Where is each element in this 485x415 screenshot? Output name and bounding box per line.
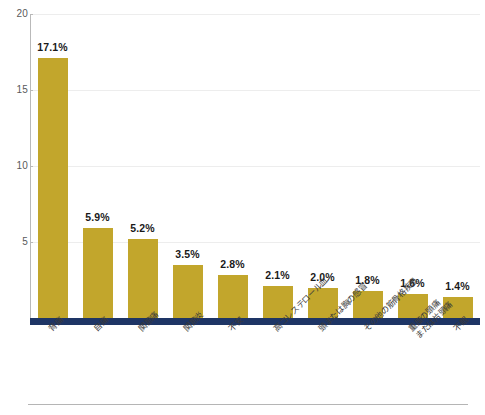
bar-group: 17.1% xyxy=(38,14,68,318)
y-tick-label-5: 5 xyxy=(4,236,28,247)
bar-group: 1.8% xyxy=(353,14,383,318)
bar-chart: 20 15 10 5 17.1%5.9%5.2%3.5%2.8%2.1%2.0%… xyxy=(0,0,485,415)
bar-value-label: 2.8% xyxy=(220,258,244,270)
bar-group: 2.0% xyxy=(308,14,338,318)
bars-layer: 17.1%5.9%5.2%3.5%2.8%2.1%2.0%1.8%1.6%1.4… xyxy=(30,14,480,318)
bar xyxy=(83,228,113,318)
bar-group: 3.5% xyxy=(173,14,203,318)
bar-group: 5.2% xyxy=(128,14,158,318)
bottom-divider xyxy=(28,404,468,405)
bar xyxy=(38,58,68,318)
x-axis-labels: 背痛自痛関節痛関節炎不安高コレステロール血頭または胸の感冒その他の筋骨格疾患重度… xyxy=(30,327,480,412)
y-tick-label-10: 10 xyxy=(4,160,28,171)
bar-group: 2.8% xyxy=(218,14,248,318)
bar-value-label: 2.1% xyxy=(265,269,289,281)
y-axis-tick-labels: 20 15 10 5 xyxy=(0,0,28,415)
bar-group: 1.4% xyxy=(443,14,473,318)
y-tick-label-20: 20 xyxy=(4,8,28,19)
bar-group: 1.6% xyxy=(398,14,428,318)
bar-group: 5.9% xyxy=(83,14,113,318)
bar-value-label: 3.5% xyxy=(175,248,199,260)
bar-value-label: 5.2% xyxy=(130,222,154,234)
bar-value-label: 1.4% xyxy=(445,280,469,292)
bar-value-label: 17.1% xyxy=(37,41,67,53)
y-tick-label-15: 15 xyxy=(4,84,28,95)
bar xyxy=(218,275,248,318)
bar-value-label: 5.9% xyxy=(85,211,109,223)
bar xyxy=(128,239,158,318)
bar-group: 2.1% xyxy=(263,14,293,318)
